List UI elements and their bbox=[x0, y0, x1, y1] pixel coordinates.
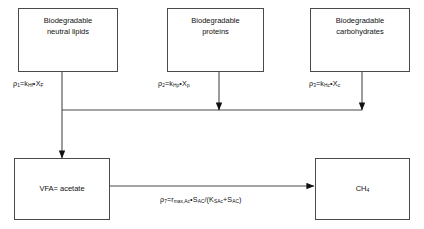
equation-rho7: ρ7=rmax,Ac•SAC/(KSAc+SAC) bbox=[160, 195, 241, 204]
rho7-denominator-open: /(K bbox=[205, 195, 215, 204]
rho7-s2-index: AC bbox=[232, 199, 239, 204]
rho7-plus-s: +S bbox=[223, 195, 232, 204]
rho1-k: =k bbox=[20, 79, 28, 88]
rho7-k-index: SAc bbox=[214, 199, 223, 204]
node-label-lipids: Biodegradable neutral lipids bbox=[44, 16, 92, 38]
node-label-carbohydrates: Biodegradable carbohydrates bbox=[336, 16, 384, 38]
node-methane: CH4 bbox=[315, 158, 410, 220]
rho7-close-paren: ) bbox=[239, 195, 242, 204]
node-biodegradable-proteins: Biodegradable proteins bbox=[167, 8, 264, 72]
node-label-proteins: Biodegradable proteins bbox=[191, 16, 239, 38]
node-vfa-acetate: VFA= acetate bbox=[14, 158, 110, 220]
diagram-canvas: Biodegradable neutral lipids Biodegradab… bbox=[0, 0, 424, 229]
rho7-s-index: AC bbox=[198, 199, 205, 204]
rho2-x-index: p bbox=[187, 83, 190, 88]
rho3-x-index: c bbox=[338, 83, 340, 88]
equation-rho1: ρ1=kHf•XF bbox=[13, 79, 44, 88]
rho7-r-index: max,Ac bbox=[174, 199, 190, 204]
equation-rho3: ρ3=kHc•Xc bbox=[309, 79, 340, 88]
node-biodegradable-neutral-lipids: Biodegradable neutral lipids bbox=[18, 8, 118, 72]
node-biodegradable-carbohydrates: Biodegradable carbohydrates bbox=[310, 8, 410, 72]
methane-subscript: 4 bbox=[367, 187, 370, 193]
rho1-x-index: F bbox=[41, 83, 44, 88]
node-label-methane: CH4 bbox=[356, 184, 370, 195]
equation-rho2: ρ2=kHp•Xp bbox=[158, 79, 190, 88]
rho3-k: =k bbox=[316, 79, 324, 88]
rho7-r: =r bbox=[167, 195, 174, 204]
rho2-k: =k bbox=[165, 79, 173, 88]
node-label-vfa: VFA= acetate bbox=[39, 184, 84, 195]
